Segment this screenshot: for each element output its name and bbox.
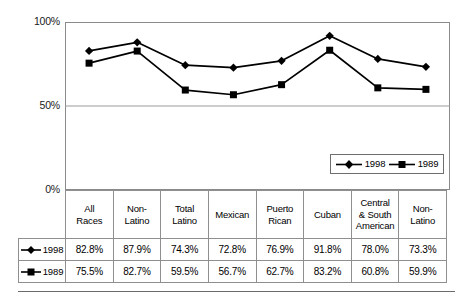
table-corner-cell <box>19 191 66 239</box>
square-marker-icon <box>21 267 41 277</box>
table-row: 199882.8%87.9%74.3%72.8%76.9%91.8%78.0%7… <box>19 239 447 261</box>
data-table: AllRacesNon-LatinoTotalLatinoMexicanPuer… <box>18 190 447 283</box>
table-header-cell: TotalLatino <box>161 191 209 239</box>
bottom-divider-rule <box>18 291 455 292</box>
table-cell: 82.8% <box>66 239 114 261</box>
table-cell: 82.7% <box>113 261 161 283</box>
table-cell: 74.3% <box>161 239 209 261</box>
legend-label-1998: 1998 <box>365 159 386 169</box>
table-header-cell: AllRaces <box>66 191 114 239</box>
table-cell: 56.7% <box>208 261 256 283</box>
table-header-cell: PuertoRican <box>256 191 304 239</box>
legend-item-1989: 1989 <box>389 159 439 170</box>
data-point-square <box>134 48 141 55</box>
data-point-square <box>182 87 189 94</box>
data-point-square <box>326 47 333 54</box>
table-header-cell: Central& SouthAmerican <box>351 191 399 239</box>
table-cell: 59.9% <box>399 261 447 283</box>
table-header-cell: Non-Latino <box>399 191 447 239</box>
data-point-square <box>86 60 93 67</box>
data-point-diamond <box>133 38 141 46</box>
table-header-cell: Non-Latino <box>113 191 161 239</box>
table-cell: 87.9% <box>113 239 161 261</box>
line-chart: 100% 50% 0% 1998 1989 <box>0 0 465 195</box>
diamond-marker-icon <box>336 159 362 170</box>
table-cell: 76.9% <box>256 239 304 261</box>
table-header-cell: Mexican <box>208 191 256 239</box>
table-cell: 73.3% <box>399 239 447 261</box>
data-point-diamond <box>326 32 334 40</box>
data-point-diamond <box>422 63 430 71</box>
data-point-diamond <box>181 61 189 69</box>
table-row: 198975.5%82.7%59.5%56.7%62.7%83.2%60.8%5… <box>19 261 447 283</box>
table-cell: 59.5% <box>161 261 209 283</box>
series-1989 <box>86 47 430 99</box>
square-marker-icon <box>389 159 415 170</box>
legend-item-1998: 1998 <box>336 159 386 170</box>
data-point-square <box>374 84 381 91</box>
table-cell: 91.8% <box>304 239 352 261</box>
table-row-label: 1998 <box>19 239 66 261</box>
data-point-square <box>278 81 285 88</box>
table-body: 199882.8%87.9%74.3%72.8%76.9%91.8%78.0%7… <box>19 239 447 283</box>
table-row-label-text: 1998 <box>43 244 64 255</box>
table-cell: 72.8% <box>208 239 256 261</box>
table-cell: 75.5% <box>66 261 114 283</box>
data-point-diamond <box>85 47 93 55</box>
chart-figure: 100% 50% 0% 1998 1989 <box>0 0 465 299</box>
data-point-square <box>422 86 429 93</box>
table-header-cell: Cuban <box>304 191 352 239</box>
table-cell: 60.8% <box>351 261 399 283</box>
table-cell: 62.7% <box>256 261 304 283</box>
data-point-square <box>230 91 237 98</box>
table-cell: 83.2% <box>304 261 352 283</box>
table-cell: 78.0% <box>351 239 399 261</box>
table-header-row: AllRacesNon-LatinoTotalLatinoMexicanPuer… <box>19 191 447 239</box>
chart-legend: 1998 1989 <box>330 154 444 174</box>
data-point-diamond <box>374 55 382 63</box>
table-row-label-text: 1989 <box>43 266 64 277</box>
table-row-label: 1989 <box>19 261 66 283</box>
legend-label-1989: 1989 <box>418 159 439 169</box>
diamond-marker-icon <box>21 245 41 255</box>
series-group <box>85 32 430 99</box>
data-point-diamond <box>277 57 285 65</box>
data-point-diamond <box>229 64 237 72</box>
